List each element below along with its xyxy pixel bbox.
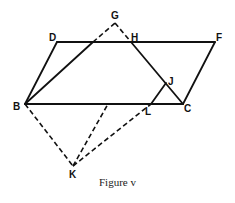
segment-KL: [73, 104, 151, 166]
segment-BG-solid: [25, 42, 93, 104]
label-F: F: [216, 32, 222, 43]
label-D: D: [49, 32, 56, 43]
label-B: B: [13, 101, 20, 112]
segment-GH: [115, 23, 131, 42]
segment-BG-dashed: [93, 23, 115, 42]
geometry-figure: D F B C G H J L K: [0, 0, 235, 203]
segment-LJ: [151, 83, 166, 104]
label-G: G: [111, 10, 119, 21]
segment-BK: [25, 104, 73, 166]
figure-caption: Figure v: [0, 176, 235, 188]
label-L: L: [145, 106, 151, 117]
segment-FC: [183, 42, 215, 104]
label-H: H: [131, 32, 138, 43]
label-C: C: [184, 103, 191, 114]
segment-K-to-BC: [73, 104, 108, 166]
segment-BD: [25, 42, 57, 104]
label-J: J: [168, 76, 174, 87]
